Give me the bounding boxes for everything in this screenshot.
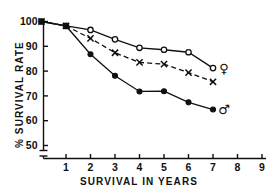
x-tick-label: 1: [63, 161, 69, 173]
data-point: [88, 27, 93, 32]
y-tick-label: 50: [26, 139, 38, 151]
y-tick-label: 90: [26, 40, 38, 52]
y-tick-label: 60: [26, 114, 38, 126]
x-tick-label: 4: [137, 161, 143, 173]
series-line: [42, 22, 214, 110]
data-point: [88, 52, 93, 57]
data-point: [113, 73, 118, 78]
x-tick-label: 5: [161, 161, 167, 173]
y-tick-label: 80: [26, 65, 38, 77]
x-tick-label: 9: [259, 161, 265, 173]
data-point: [39, 19, 44, 24]
data-point: [211, 107, 216, 112]
data-point: [186, 100, 191, 105]
plot-canvas: 5060708090100123456789♀♂: [0, 0, 278, 195]
figure: % SURVIVAL RATE SURVIVAL IN YEARS 506070…: [0, 0, 278, 195]
x-tick-label: 7: [210, 161, 216, 173]
data-point: [186, 50, 191, 55]
y-tick-label: 100: [20, 15, 38, 27]
data-point: [162, 89, 167, 94]
series-male: [39, 19, 216, 112]
x-tick-label: 3: [112, 161, 118, 173]
data-point: [137, 89, 142, 94]
data-point: [210, 65, 215, 70]
x-tick-label: 8: [235, 161, 241, 173]
data-point: [64, 23, 69, 28]
data-point: [112, 37, 117, 42]
data-point: [137, 45, 142, 50]
female-symbol-annotation: ♀: [219, 61, 229, 76]
x-tick-label: 2: [88, 161, 94, 173]
data-point: [161, 47, 166, 52]
y-tick-label: 70: [26, 90, 38, 102]
x-tick-label: 6: [186, 161, 192, 173]
male-symbol-annotation: ♂: [218, 102, 230, 117]
